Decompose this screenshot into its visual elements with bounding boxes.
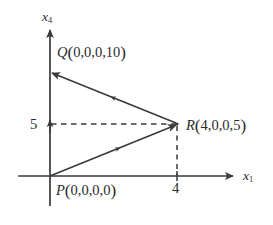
point-label-r: R(4,0,0,5) <box>186 117 246 134</box>
point-label-q-name: Q <box>57 44 67 60</box>
point-label-q: Q(0,0,0,10) <box>57 44 126 61</box>
vector-p-to-r <box>50 125 176 176</box>
vector-r-to-q <box>52 73 176 123</box>
tick-label-5: 5 <box>30 117 37 132</box>
vector-diagram-figure: x4 x1 Q(0,0,0,10) R(4,0,0,5) P(0,0,0,0) … <box>0 0 273 225</box>
point-label-q-coords: 0,0,0,10 <box>73 44 120 60</box>
point-label-p-coords: 0,0,0,0 <box>71 182 111 198</box>
tick-label-4: 4 <box>172 181 179 196</box>
point-label-p: P(0,0,0,0) <box>56 182 116 199</box>
point-label-r-coords: 4,0,0,5 <box>201 117 241 133</box>
axis-label-x1: x1 <box>243 169 253 184</box>
point-label-p-close-paren: ) <box>110 181 116 200</box>
point-label-q-close-paren: ) <box>120 43 126 62</box>
axis-label-x1-subscript: 1 <box>249 175 253 184</box>
diagram-canvas <box>0 0 273 225</box>
point-label-r-close-paren: ) <box>240 116 246 135</box>
axis-label-x4: x4 <box>42 10 52 25</box>
point-marker-r <box>175 122 178 125</box>
point-label-p-name: P <box>56 182 65 198</box>
axis-label-x4-subscript: 4 <box>48 16 52 25</box>
point-label-r-name: R <box>186 117 195 133</box>
